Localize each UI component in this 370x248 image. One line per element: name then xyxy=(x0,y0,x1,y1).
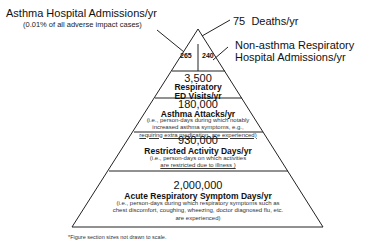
cell-non-asthma-value: 240 xyxy=(202,52,214,59)
non-asthma-label-line2: Hospital Admissions/yr xyxy=(235,52,354,63)
deaths-value: 75 xyxy=(233,15,245,27)
cell-asthma-hospital-value: 265 xyxy=(180,52,192,59)
pointer-deaths xyxy=(202,20,230,36)
tier-restricted-desc: (i.e., person-days on which activities a… xyxy=(150,155,246,170)
restricted-desc-line2: are restricted due to illness ) xyxy=(150,162,246,169)
non-asthma-label-line1: Non-asthma Respiratory xyxy=(235,40,354,51)
footnote: *Figure section sizes not drawn to scale… xyxy=(68,235,166,241)
acute-desc-line1: (i.e., person-days during which respirat… xyxy=(113,200,283,207)
tier-restricted-value: 930,000 xyxy=(178,135,218,146)
restricted-desc-line1: (i.e., person-days on which activities xyxy=(150,155,246,162)
tier-acute-symptom-desc: (i.e., person-days during which respirat… xyxy=(113,200,283,222)
tier-acute-symptom-value: 2,000,000 xyxy=(174,180,223,191)
asthma-hospital-sublabel: (0.01% of all adverse impact cases) xyxy=(23,21,142,29)
asthma-desc-line1: (i.e., person-days during which notably xyxy=(139,117,256,124)
acute-desc-line2: chest discomfort, coughing, wheezing, do… xyxy=(113,207,283,214)
deaths-callout: 75 Deaths/yr xyxy=(233,16,298,27)
acute-desc-line3: are experienced) xyxy=(113,215,283,222)
non-asthma-hospital-label: Non-asthma Respiratory Hospital Admissio… xyxy=(235,40,354,63)
asthma-desc-line2: increased asthma symptoms, e.g., xyxy=(139,124,256,131)
asthma-hospital-label: Asthma Hospital Admissions/yr xyxy=(6,8,157,19)
deaths-label: Deaths/yr xyxy=(251,15,298,27)
pointer-non-asthma xyxy=(213,47,228,60)
pointer-asthma-hospital xyxy=(157,30,184,52)
